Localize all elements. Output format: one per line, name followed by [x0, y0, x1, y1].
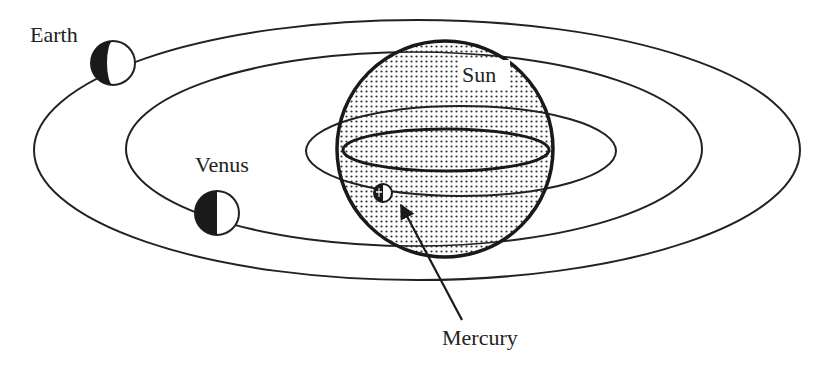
venus-planet-icon: [195, 191, 239, 235]
mercury-planet-icon: [374, 184, 392, 202]
venus-label: Venus: [195, 154, 249, 176]
solar-system-diagram: Earth Venus Sun Mercury: [0, 0, 834, 368]
diagram-canvas: [0, 0, 834, 368]
sun-label: Sun: [462, 64, 496, 86]
earth-label: Earth: [30, 24, 78, 46]
earth-planet-icon: [91, 41, 135, 85]
mercury-label: Mercury: [442, 327, 518, 349]
